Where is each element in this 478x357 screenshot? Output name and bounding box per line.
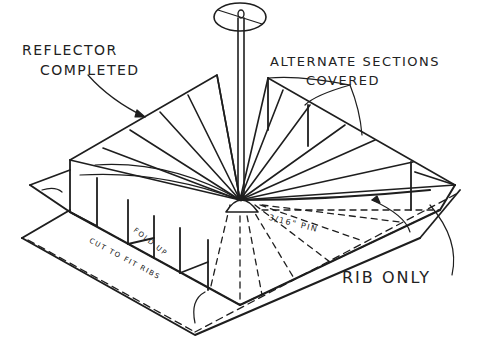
label-line: ALTERNATE SECTIONS (270, 54, 440, 69)
rib-only-label: RIB ONLY (342, 268, 431, 287)
label-line: REFLECTOR (22, 42, 118, 58)
alternate-sections-label: ALTERNATE SECTIONS COVERED (270, 52, 440, 90)
reflector-completed-label: REFLECTOR COMPLETED (22, 40, 140, 80)
reflector-ribs (70, 75, 455, 200)
reflector-diagram: REFLECTOR COMPLETED ALTERNATE SECTIONS C… (0, 0, 478, 357)
label-line: COVERED (270, 71, 440, 90)
dashed-ribs (210, 205, 440, 305)
label-line: COMPLETED (22, 60, 140, 80)
